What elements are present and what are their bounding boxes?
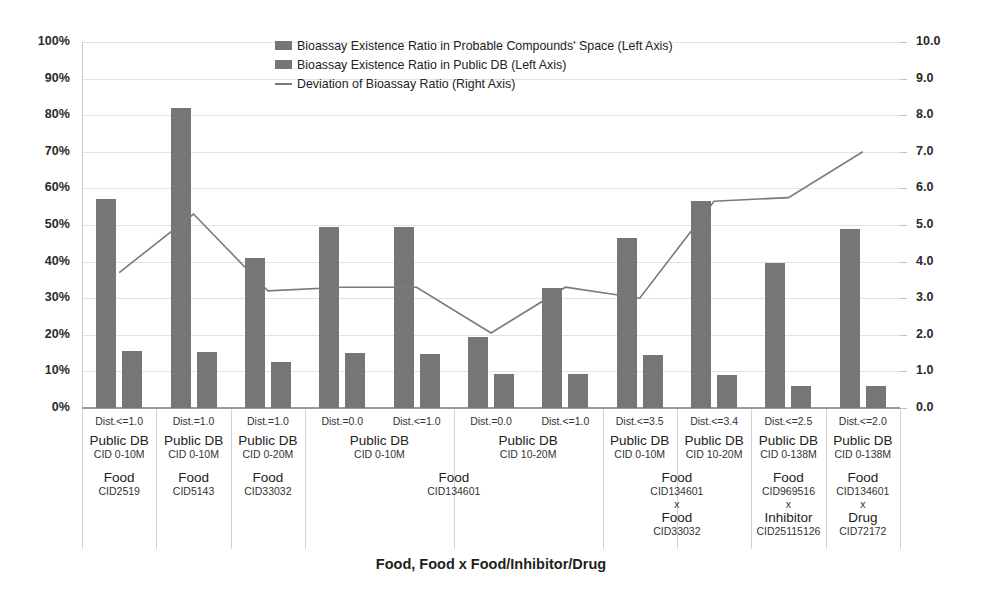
sublabel-entity-cid: CID134601 <box>305 485 602 498</box>
sublabel-entity-cid: CID33032 <box>231 485 305 498</box>
group-label-public-db: Public DBCID 0-10M <box>82 433 156 461</box>
sublabel-entity-name: Food <box>751 470 825 485</box>
sublabel-separator: x <box>826 498 900 510</box>
y-axis-left-tick-label: 40% <box>8 254 70 268</box>
group-label-line1: Public DB <box>82 433 156 448</box>
category-distance-label: Dist.<=2.0 <box>826 415 900 427</box>
sublabel-entity-cid: CID134601 <box>603 485 752 498</box>
sublabel-entity-name: Food <box>603 470 752 485</box>
x-axis-title: Food, Food x Food/Inhibitor/Drug <box>0 556 982 572</box>
y-axis-left-tick-label: 70% <box>8 144 70 158</box>
y-axis-left-tick-label: 50% <box>8 217 70 231</box>
y-axis-right-tick <box>900 79 907 80</box>
y-axis-right-tick-label: 7.0 <box>916 144 972 158</box>
bioassay-ratio-chart: 100%90%80%70%60%50%40%30%20%10%0% 10.09.… <box>0 0 982 599</box>
y-axis-left-tick-label: 10% <box>8 363 70 377</box>
category-distance-label: Dist.<=1.0 <box>379 415 453 427</box>
y-axis-right-tick-label: 9.0 <box>916 71 972 85</box>
y-axis-right-tick <box>900 152 907 153</box>
group-label-line1: Public DB <box>454 433 603 448</box>
group-label-line2: CID 0-138M <box>826 448 900 461</box>
group-label-line2: CID 0-10M <box>82 448 156 461</box>
group-sublabel-entity: FoodCID969516xInhibitorCID25115126 <box>751 470 825 538</box>
category-distance-label: Dist.<=2.5 <box>751 415 825 427</box>
group-label-line1: Public DB <box>231 433 305 448</box>
y-axis-right-tick-label: 10.0 <box>916 34 972 48</box>
gridline <box>82 408 900 409</box>
group-label-line2: CID 0-10M <box>305 448 454 461</box>
group-label-line1: Public DB <box>305 433 454 448</box>
sublabel-entity-cid: CID2519 <box>82 485 156 498</box>
group-label-line2: CID 0-20M <box>231 448 305 461</box>
group-label-public-db: Public DBCID 0-10M <box>603 433 677 461</box>
sublabel-entity-name: Food <box>156 470 230 485</box>
y-axis-left-tick-label: 80% <box>8 107 70 121</box>
group-sublabel-entity: FoodCID5143 <box>156 470 230 498</box>
deviation-line-layer <box>82 42 900 408</box>
sublabel-entity-name: Food <box>826 470 900 485</box>
category-distance-label: Dist.<=1.0 <box>528 415 602 427</box>
sublabel-entity-cid: CID72172 <box>826 525 900 538</box>
y-axis-right-tick <box>900 335 907 336</box>
sublabel-entity-name: Food <box>82 470 156 485</box>
group-label-line1: Public DB <box>156 433 230 448</box>
sublabel-entity-name: Food <box>305 470 602 485</box>
group-label-line1: Public DB <box>603 433 677 448</box>
y-axis-left-tick-label: 60% <box>8 180 70 194</box>
y-axis-right-tick-label: 0.0 <box>916 400 972 414</box>
y-axis-right-tick <box>900 225 907 226</box>
y-axis-right-tick-label: 8.0 <box>916 107 972 121</box>
y-axis-left-tick-label: 0% <box>8 400 70 414</box>
sublabel-entity-cid: CID33032 <box>603 525 752 538</box>
y-axis-right-tick-label: 2.0 <box>916 327 972 341</box>
sublabel-entity-name: Inhibitor <box>751 510 825 525</box>
y-axis-right-tick-label: 3.0 <box>916 290 972 304</box>
group-label-public-db: Public DBCID 10-20M <box>454 433 603 461</box>
deviation-line <box>119 152 863 333</box>
group-sublabel-entity: FoodCID134601xFoodCID33032 <box>603 470 752 538</box>
sublabel-entity-cid: CID134601 <box>826 485 900 498</box>
y-axis-right-tick <box>900 42 907 43</box>
group-sublabel-entity: FoodCID134601 <box>305 470 602 498</box>
category-separator <box>900 409 901 549</box>
y-axis-left-tick-label: 90% <box>8 71 70 85</box>
group-label-line2: CID 0-138M <box>751 448 825 461</box>
group-label-line1: Public DB <box>751 433 825 448</box>
y-axis-right-tick <box>900 262 907 263</box>
y-axis-right-tick-label: 4.0 <box>916 254 972 268</box>
sublabel-separator: x <box>751 498 825 510</box>
y-axis-left-tick-label: 20% <box>8 327 70 341</box>
group-label-line2: CID 0-10M <box>156 448 230 461</box>
y-axis-right-tick-label: 6.0 <box>916 180 972 194</box>
category-distance-label: Dist.<=1.0 <box>82 415 156 427</box>
group-sublabel-entity: FoodCID134601xDrugCID72172 <box>826 470 900 538</box>
group-label-public-db: Public DBCID 0-20M <box>231 433 305 461</box>
group-sublabel-entity: FoodCID2519 <box>82 470 156 498</box>
y-axis-right-tick-label: 1.0 <box>916 363 972 377</box>
sublabel-entity-cid: CID25115126 <box>751 525 825 538</box>
y-axis-right-tick <box>900 408 907 409</box>
group-label-line2: CID 10-20M <box>454 448 603 461</box>
y-axis-right-tick-label: 5.0 <box>916 217 972 231</box>
category-distance-label: Dist.=0.0 <box>305 415 379 427</box>
sublabel-entity-cid: CID969516 <box>751 485 825 498</box>
group-label-line2: CID 0-10M <box>603 448 677 461</box>
group-label-line1: Public DB <box>826 433 900 448</box>
group-label-line1: Public DB <box>677 433 751 448</box>
category-distance-label: Dist.=1.0 <box>156 415 230 427</box>
y-axis-right-tick <box>900 298 907 299</box>
y-axis-left-tick-label: 100% <box>8 34 70 48</box>
group-label-public-db: Public DBCID 0-10M <box>156 433 230 461</box>
group-label-public-db: Public DBCID 0-10M <box>305 433 454 461</box>
sublabel-entity-name: Food <box>231 470 305 485</box>
group-sublabel-entity: FoodCID33032 <box>231 470 305 498</box>
y-axis-right-tick <box>900 371 907 372</box>
sublabel-entity-name: Drug <box>826 510 900 525</box>
sublabel-entity-cid: CID5143 <box>156 485 230 498</box>
group-label-public-db: Public DBCID 0-138M <box>751 433 825 461</box>
category-distance-label: Dist.=0.0 <box>454 415 528 427</box>
group-label-public-db: Public DBCID 0-138M <box>826 433 900 461</box>
sublabel-entity-name: Food <box>603 510 752 525</box>
y-axis-left-tick-label: 30% <box>8 290 70 304</box>
y-axis-right-tick <box>900 115 907 116</box>
